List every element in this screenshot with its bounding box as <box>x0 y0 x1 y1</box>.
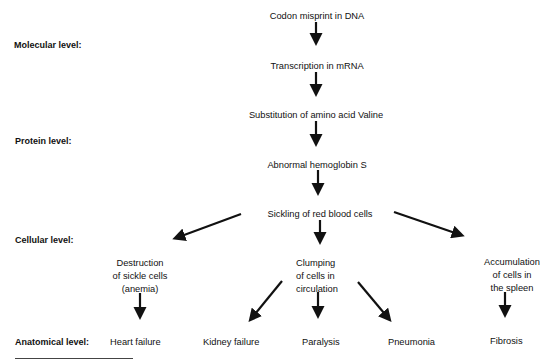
arrow-sickling-to-destruction <box>176 214 241 238</box>
node-clumping: Clumping of cells in circulation <box>296 257 338 295</box>
outcome-heart-failure: Heart failure <box>110 336 161 348</box>
arrow-clumping-to-kidney-failure <box>251 281 282 319</box>
node-transcription: Transcription in mRNA <box>270 60 363 72</box>
outcome-paralysis: Paralysis <box>302 336 340 348</box>
outcome-fibrosis: Fibrosis <box>490 335 523 347</box>
level-label-protein: Protein level: <box>15 135 72 147</box>
arrows-layer <box>0 0 559 362</box>
node-codon-misprint: Codon misprint in DNA <box>270 10 365 22</box>
level-label-cellular: Cellular level: <box>15 234 74 246</box>
node-substitution: Substitution of amino acid Valine <box>249 109 383 121</box>
node-sickling: Sickling of red blood cells <box>268 208 373 220</box>
footnote-rule <box>15 358 133 359</box>
outcome-pneumonia: Pneumonia <box>388 336 435 348</box>
outcome-kidney-failure: Kidney failure <box>203 336 259 348</box>
arrow-sickling-to-accumulation <box>394 212 461 235</box>
level-label-molecular: Molecular level: <box>14 39 82 51</box>
node-destruction: Destruction of sickle cells (anemia) <box>113 257 168 295</box>
arrow-clumping-to-pneumonia <box>358 282 389 319</box>
level-label-anatomical: Anatomical level: <box>15 336 89 348</box>
node-accumulation: Accumulation of cells in the spleen <box>484 256 540 294</box>
node-abnormal-hemoglobin: Abnormal hemoglobin S <box>267 159 366 171</box>
